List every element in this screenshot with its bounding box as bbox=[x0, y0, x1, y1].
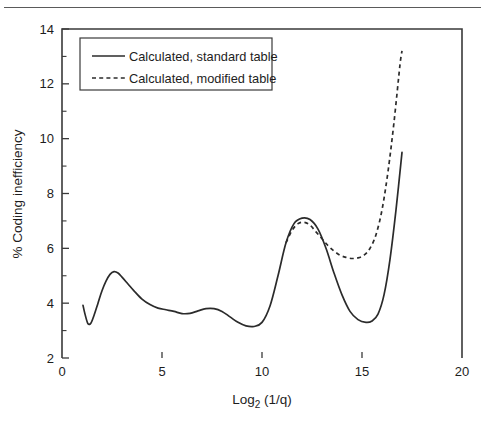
legend-label-1: Calculated, modified table bbox=[129, 71, 276, 86]
y-tick-label: 12 bbox=[40, 76, 54, 91]
data-series-group bbox=[83, 51, 402, 327]
x-axis-label: Log2 (1/q) bbox=[232, 392, 292, 410]
y-tick-label: 10 bbox=[40, 131, 54, 146]
figure-container: 246810121405101520 % Coding inefficiency… bbox=[0, 0, 485, 430]
legend-label-0: Calculated, standard table bbox=[129, 49, 278, 64]
y-tick-label: 4 bbox=[47, 296, 54, 311]
x-tick-label: 0 bbox=[58, 364, 65, 379]
chart-plot: 246810121405101520 % Coding inefficiency… bbox=[0, 0, 485, 430]
x-axis-label-rest: (1/q) bbox=[260, 392, 292, 407]
series-line-0 bbox=[83, 152, 402, 326]
x-tick-label: 5 bbox=[158, 364, 165, 379]
series-line-1 bbox=[286, 51, 402, 259]
legend: Calculated, standard table Calculated, m… bbox=[80, 38, 278, 90]
y-tick-label: 6 bbox=[47, 241, 54, 256]
x-tick-label: 15 bbox=[355, 364, 369, 379]
y-tick-label: 2 bbox=[47, 351, 54, 366]
y-tick-label: 14 bbox=[40, 22, 54, 37]
x-tick-label: 20 bbox=[455, 364, 469, 379]
x-axis-label-text: Log2 (1/q) bbox=[232, 392, 292, 410]
y-axis-label: % Coding inefficiency bbox=[10, 129, 25, 258]
y-axis-label-text: % Coding inefficiency bbox=[10, 129, 25, 258]
x-axis-label-base: Log bbox=[232, 392, 255, 407]
x-tick-label: 10 bbox=[255, 364, 269, 379]
y-tick-label: 8 bbox=[47, 186, 54, 201]
